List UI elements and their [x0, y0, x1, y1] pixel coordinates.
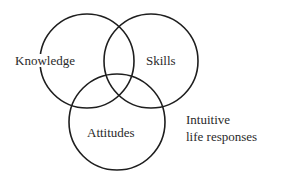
intuitive-label-line1: Intuitive	[186, 111, 257, 128]
attitudes-circle	[69, 74, 165, 170]
skills-label: Skills	[146, 54, 176, 67]
intuitive-life-responses-label: Intuitive life responses	[186, 111, 257, 145]
venn-diagram	[0, 0, 286, 179]
intuitive-label-line2: life responses	[186, 128, 257, 145]
knowledge-label: Knowledge	[14, 54, 76, 67]
attitudes-label: Attitudes	[87, 126, 135, 139]
